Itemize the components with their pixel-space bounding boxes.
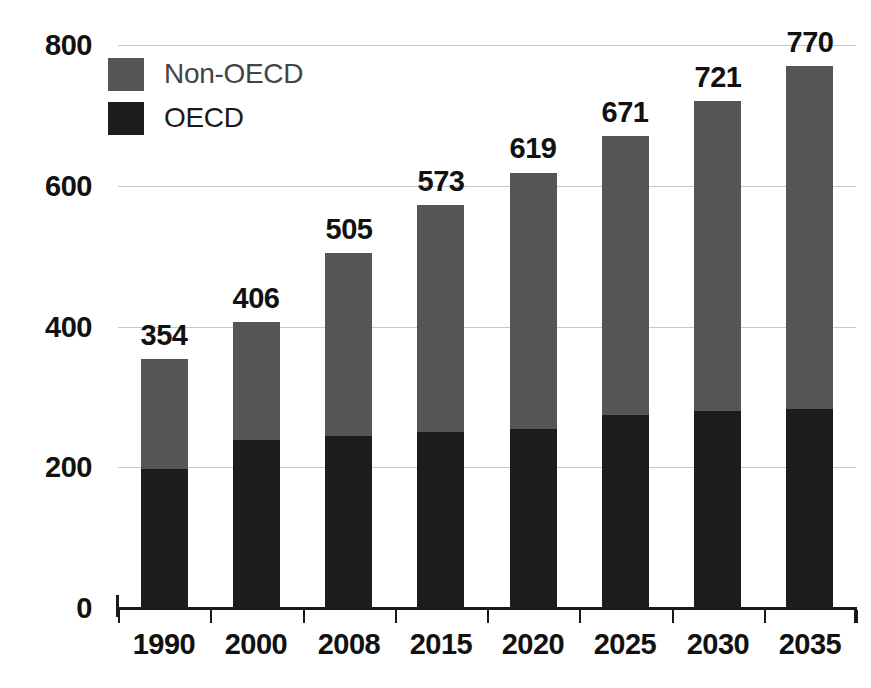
bar-segment-oecd-2008 [325, 436, 372, 608]
gridline-800 [118, 45, 856, 46]
bar-2008 [325, 253, 372, 608]
x-axis-tickmark-6 [672, 610, 674, 623]
bar-value-label-2025: 671 [570, 98, 680, 127]
x-axis-tickmark-7 [764, 610, 766, 623]
legend-item-non-oecd: Non-OECD [108, 52, 303, 96]
bar-2035 [786, 66, 833, 608]
x-axis-tickmark-3 [395, 610, 397, 623]
bar-segment-oecd-2035 [786, 409, 833, 608]
bar-segment-oecd-2000 [233, 440, 280, 608]
legend-swatch-oecd [108, 102, 144, 135]
bar-value-label-2020: 619 [478, 134, 588, 163]
legend-label-non-oecd: Non-OECD [164, 60, 303, 88]
y-tick-label-200: 200 [0, 453, 92, 482]
gridline-400 [118, 327, 856, 328]
bar-2000 [233, 322, 280, 608]
bar-segment-non-oecd-2035 [786, 66, 833, 409]
bar-segment-non-oecd-2020 [510, 173, 557, 429]
stacked-bar-chart: 0200400600800 354406505573619671721770 1… [0, 0, 871, 688]
bar-segment-oecd-2030 [694, 411, 741, 608]
x-axis-tickmark-5 [579, 610, 581, 623]
y-tick-label-0: 0 [0, 594, 92, 623]
x-axis-tickmark-1 [210, 610, 212, 623]
bar-value-label-2035: 770 [755, 28, 865, 57]
bar-segment-non-oecd-1990 [141, 359, 188, 469]
bar-segment-non-oecd-2008 [325, 253, 372, 436]
bar-segment-non-oecd-2015 [417, 205, 464, 432]
x-axis-tickmark-4 [487, 610, 489, 623]
bar-segment-oecd-1990 [141, 469, 188, 608]
chart-legend: Non-OECD OECD [108, 52, 303, 140]
x-axis-line [116, 607, 856, 610]
bar-2015 [417, 205, 464, 608]
bar-segment-non-oecd-2025 [602, 136, 649, 415]
bar-value-label-2030: 721 [663, 63, 773, 92]
bar-value-label-2015: 573 [386, 167, 496, 196]
legend-item-oecd: OECD [108, 96, 303, 140]
y-tick-label-600: 600 [0, 171, 92, 200]
y-tick-label-800: 800 [0, 31, 92, 60]
bar-segment-non-oecd-2030 [694, 101, 741, 411]
legend-swatch-non-oecd [108, 58, 144, 91]
bar-value-label-2000: 406 [201, 284, 311, 313]
x-axis-tickmark-2 [303, 610, 305, 623]
bar-segment-non-oecd-2000 [233, 322, 280, 440]
gridline-200 [118, 467, 856, 468]
x-axis-right-cap [854, 607, 857, 623]
bar-segment-oecd-2020 [510, 429, 557, 608]
bar-2020 [510, 172, 557, 608]
bar-value-label-1990: 354 [109, 321, 219, 350]
bar-value-label-2008: 505 [294, 215, 404, 244]
bar-2025 [602, 136, 649, 608]
legend-label-oecd: OECD [164, 104, 244, 132]
bar-segment-oecd-2025 [602, 415, 649, 608]
bar-2030 [694, 101, 741, 608]
y-axis-line [116, 595, 119, 617]
x-tick-label-2035: 2035 [755, 630, 865, 659]
y-tick-label-400: 400 [0, 312, 92, 341]
bar-1990 [141, 359, 188, 608]
bar-segment-oecd-2015 [417, 432, 464, 608]
